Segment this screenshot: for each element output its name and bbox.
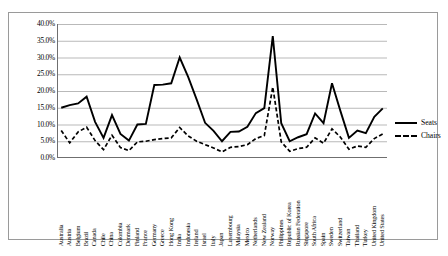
x-tick-label: Italy [210, 235, 216, 246]
legend-swatch-seats [395, 122, 417, 124]
y-tick-label: 10.0% [37, 121, 55, 128]
x-tick-label: Belgium [74, 225, 80, 246]
x-tick-label: Philippines [277, 219, 283, 246]
x-tick-label: Australia [57, 224, 63, 246]
legend-item-chairs: Chairs [395, 129, 448, 142]
x-tick-label: United Kingdom [370, 206, 376, 246]
x-tick-label: New Zealand [260, 214, 266, 246]
x-tick-label: China [108, 232, 114, 246]
x-tick-label: Malaysia [235, 224, 241, 246]
legend-swatch-chairs [395, 135, 417, 137]
x-tick-label: Israel [201, 233, 207, 246]
x-tick-label: India [176, 234, 182, 246]
legend-label-chairs: Chairs [421, 132, 441, 140]
x-tick-label: Brazil [83, 232, 89, 247]
x-tick-label: Germany [150, 224, 156, 246]
y-tick-label: 40.0% [37, 20, 55, 27]
x-tick-label: Finland [133, 228, 139, 246]
y-tick-label: 25.0% [37, 71, 55, 78]
x-tick-label: Turkey [362, 229, 368, 246]
x-tick-label: United States [379, 214, 385, 246]
x-tick-label: Indonesia [184, 223, 190, 246]
x-tick-label: Norway [269, 227, 275, 246]
x-tick-label: Republic of Korea [286, 202, 292, 246]
chart-frame: 40.0%35.0%30.0%25.0%20.0%15.0%10.0%5.0%0… [8, 12, 438, 240]
x-tick-label: Greece [159, 229, 165, 246]
x-tick-label: Russian Federation [294, 200, 300, 246]
y-tick-label: 0.0% [40, 154, 55, 161]
x-tick-label: Singapore [303, 222, 309, 246]
x-tick-label: France [142, 230, 148, 246]
x-tick-label: Colombia [117, 222, 123, 246]
y-tick-label: 30.0% [37, 54, 55, 61]
x-tick-label: Ireland [193, 229, 199, 246]
x-tick-label: South Africa [311, 216, 317, 246]
chart-svg [57, 24, 387, 158]
series-layer [61, 36, 383, 152]
y-tick-label: 5.0% [40, 138, 55, 145]
x-tick-label: Mexico [243, 228, 249, 246]
x-tick-label: Austria [66, 229, 72, 247]
gridlines [57, 25, 387, 158]
x-tick-label: Spain [320, 232, 326, 246]
y-tick-label: 20.0% [37, 87, 55, 94]
x-tick-label: Japan [218, 232, 224, 246]
x-axis-labels: AustraliaAustriaBelgiumBrazilCanadaChile… [57, 160, 387, 246]
x-tick-label: Netherlands [252, 217, 258, 246]
x-tick-label: Denmark [125, 224, 131, 246]
chart-legend: Seats Chairs [395, 116, 448, 142]
x-tick-label: Canada [91, 228, 97, 246]
x-tick-label: Hong Kong [167, 218, 173, 246]
x-tick-label: Chile [100, 233, 106, 246]
x-tick-label: Switzerland [337, 218, 343, 246]
y-tick-label: 35.0% [37, 37, 55, 44]
y-axis-labels: 40.0%35.0%30.0%25.0%20.0%15.0%10.0%5.0%0… [9, 24, 55, 158]
x-tick-label: Taiwan [345, 228, 351, 246]
plot-area [57, 24, 387, 158]
x-tick-label: Sweden [328, 227, 334, 246]
x-tick-label: Luxembourg [227, 215, 233, 246]
legend-item-seats: Seats [395, 116, 448, 129]
legend-label-seats: Seats [421, 119, 437, 127]
x-tick-label: Thailand [353, 225, 359, 246]
y-tick-label: 15.0% [37, 104, 55, 111]
